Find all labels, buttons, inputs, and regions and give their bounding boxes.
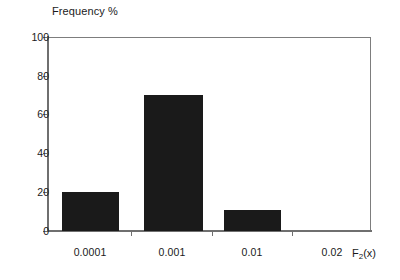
x-axis-title-base: F [352, 247, 359, 259]
x-axis-title-subscript: 2 [359, 252, 363, 261]
x-tick-label-2: 0.01 [242, 246, 263, 258]
x-tick-label-3: 0.02 [322, 246, 343, 258]
x-axis-title-tail: (x) [363, 247, 376, 259]
bar-0001 [62, 192, 119, 231]
x-tick-mark-3 [292, 231, 293, 236]
bar-01 [224, 210, 281, 231]
bar-001 [144, 95, 203, 231]
y-tick-label: 40 [23, 148, 49, 159]
y-tick-label: 80 [23, 71, 49, 82]
chart-figure: Frequency % 0 20 40 60 80 100 0.0001 0.0… [0, 0, 400, 280]
x-tick-mark-2 [212, 231, 213, 236]
y-tick-label: 20 [23, 187, 49, 198]
y-tick-label: 0 [23, 226, 49, 237]
x-tick-label-1: 0.001 [159, 246, 186, 258]
x-tick-label-0: 0.0001 [74, 246, 107, 258]
y-tick-label: 60 [23, 109, 49, 120]
y-tick-label: 100 [23, 32, 49, 43]
y-axis-line [47, 36, 49, 232]
x-axis-title: F2(x) [352, 247, 376, 259]
x-tick-mark-1 [131, 231, 132, 236]
y-axis-title: Frequency % [52, 5, 118, 17]
